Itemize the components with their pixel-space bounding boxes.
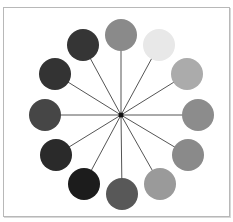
color-circle-4-oclock — [172, 139, 204, 171]
color-circle-11-oclock — [67, 29, 99, 61]
color-wheel-diagram — [0, 0, 233, 222]
color-circle-5-oclock — [144, 168, 176, 200]
color-circle-9-oclock — [29, 99, 61, 131]
color-circle-12-oclock — [105, 19, 137, 51]
color-circle-6-oclock — [106, 178, 138, 210]
center-hub — [119, 113, 124, 118]
color-circle-2-oclock — [171, 58, 203, 90]
color-circle-3-oclock — [182, 99, 214, 131]
color-circle-8-oclock — [40, 139, 72, 171]
color-circle-10-oclock — [39, 58, 71, 90]
color-circle-1-oclock — [143, 29, 175, 61]
color-circle-7-oclock — [68, 168, 100, 200]
